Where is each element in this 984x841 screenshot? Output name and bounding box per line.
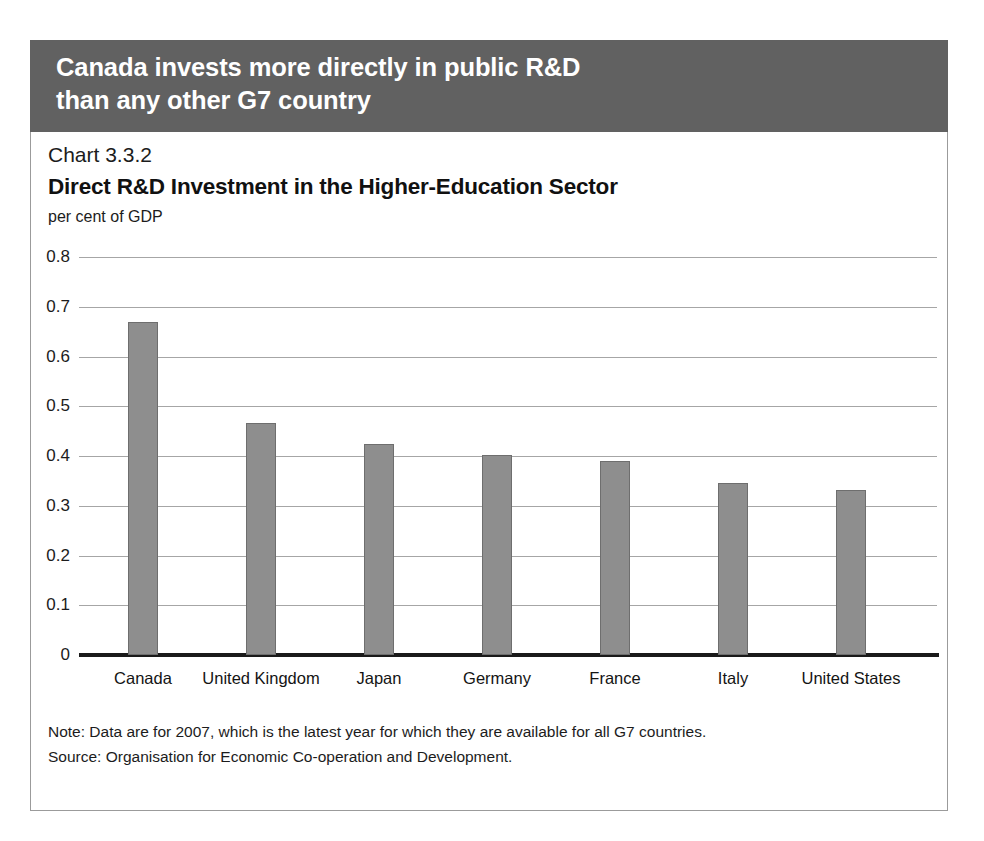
source-text: Source: Organisation for Economic Co-ope… — [48, 744, 918, 769]
y-axis-tick-label: 0 — [61, 645, 70, 665]
bar — [836, 490, 866, 655]
y-axis-tick-label: 0.6 — [46, 347, 70, 367]
gridline — [79, 357, 937, 358]
x-axis-category-label: United States — [801, 669, 900, 688]
chart-page: Canada invests more directly in public R… — [0, 0, 984, 841]
banner-headline-line-1: Canada invests more directly in public R… — [56, 51, 948, 84]
y-axis-tick-label: 0.2 — [46, 546, 70, 566]
y-axis-tick-label: 0.8 — [46, 247, 70, 267]
x-axis-category-label: Canada — [114, 669, 172, 688]
y-axis-tick-label: 0.3 — [46, 496, 70, 516]
chart-number: Chart 3.3.2 — [48, 143, 152, 167]
gridline — [79, 307, 937, 308]
bar — [246, 423, 276, 655]
gridline — [79, 257, 937, 258]
gridline — [79, 406, 937, 407]
chart-units-label: per cent of GDP — [48, 208, 163, 226]
bar — [600, 461, 630, 655]
header-banner: Canada invests more directly in public R… — [30, 40, 948, 132]
footnotes: Note: Data are for 2007, which is the la… — [48, 719, 918, 769]
bar — [718, 483, 748, 655]
bar — [128, 322, 158, 655]
chart-title: Direct R&D Investment in the Higher-Educ… — [48, 174, 618, 200]
y-axis-tick-label: 0.7 — [46, 297, 70, 317]
x-axis-category-label: France — [589, 669, 640, 688]
plot-area: 00.10.20.30.40.50.60.70.8CanadaUnited Ki… — [79, 257, 937, 655]
y-axis-tick-label: 0.1 — [46, 595, 70, 615]
bar — [482, 455, 512, 655]
x-axis-category-label: United Kingdom — [202, 669, 319, 688]
x-axis-category-label: Italy — [718, 669, 748, 688]
chart-panel: Chart 3.3.2 Direct R&D Investment in the… — [30, 132, 948, 811]
y-axis-tick-label: 0.5 — [46, 396, 70, 416]
banner-headline-line-2: than any other G7 country — [56, 84, 948, 117]
bar — [364, 444, 394, 655]
x-axis-category-label: Japan — [357, 669, 402, 688]
note-text: Note: Data are for 2007, which is the la… — [48, 719, 918, 744]
y-axis-tick-label: 0.4 — [46, 446, 70, 466]
x-axis-category-label: Germany — [463, 669, 531, 688]
